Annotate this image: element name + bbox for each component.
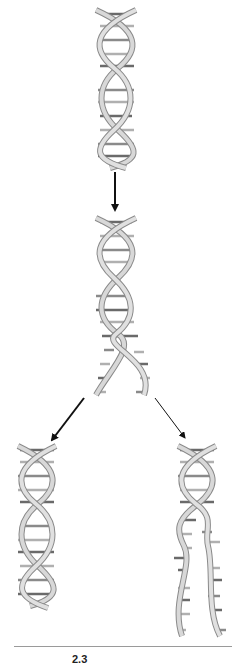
parent-helix bbox=[96, 10, 136, 168]
figure-caption: 2.3 bbox=[72, 654, 110, 665]
unwinding-helix bbox=[96, 218, 150, 395]
daughter-helix-left bbox=[18, 446, 56, 608]
arrow-left bbox=[52, 398, 84, 440]
caption-text bbox=[90, 653, 110, 665]
figure-number: 2.3 bbox=[72, 653, 87, 665]
daughter-helix-right bbox=[174, 446, 226, 636]
arrow-right bbox=[155, 398, 185, 438]
caption-divider bbox=[14, 646, 232, 647]
